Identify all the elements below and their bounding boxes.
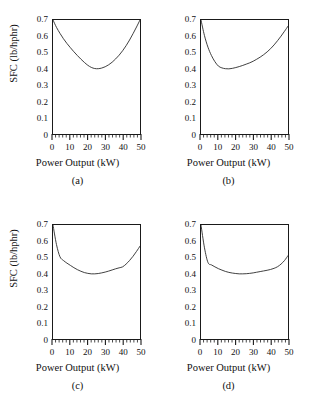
y-tick-label: 0.6 — [185, 236, 196, 245]
y-tick-label: 0.5 — [185, 48, 196, 57]
y-tick-label: 0.2 — [37, 97, 48, 106]
x-tick-label: 20 — [83, 348, 92, 357]
y-tick-label: 0.6 — [37, 236, 48, 245]
x-axis-title-d: Power Output (kW) — [151, 362, 306, 373]
y-tick-label: 0.7 — [185, 220, 196, 229]
x-tick-label: 40 — [119, 143, 128, 152]
sfc-curve-b — [201, 20, 288, 134]
y-tick-label: 0.4 — [37, 269, 48, 278]
y-tick-label: 0.6 — [185, 31, 196, 40]
x-tick-label: 30 — [101, 143, 110, 152]
x-tick-labels-c: 01020304050 — [52, 348, 141, 360]
x-tick-label: 0 — [50, 348, 55, 357]
panel-caption-c: (c) — [0, 380, 155, 391]
y-tick-label: 0.6 — [37, 31, 48, 40]
chart-panel-b: 00.10.20.30.40.50.60.7 01020304050 Power… — [156, 0, 311, 205]
x-tick-label: 40 — [267, 348, 276, 357]
x-tick-label: 30 — [249, 348, 258, 357]
y-tick-label: 0 — [44, 336, 49, 345]
x-tick-label: 0 — [198, 143, 203, 152]
x-tick-label: 50 — [137, 143, 146, 152]
y-tick-labels-d: 00.10.20.30.40.50.60.7 — [170, 224, 196, 340]
x-tick-label: 30 — [101, 348, 110, 357]
y-tick-label: 0.1 — [185, 319, 196, 328]
x-tick-label: 30 — [249, 143, 258, 152]
y-tick-label: 0.2 — [37, 302, 48, 311]
x-tick-label: 50 — [285, 143, 294, 152]
x-tick-label: 10 — [213, 143, 222, 152]
x-tick-labels-b: 01020304050 — [200, 143, 289, 155]
chart-panel-c: SFC (lb/hphr) 00.10.20.30.40.50.60.7 010… — [0, 205, 155, 410]
x-tick-labels-a: 01020304050 — [52, 143, 141, 155]
y-tick-labels-a: 00.10.20.30.40.50.60.7 — [22, 19, 48, 135]
x-tick-label: 50 — [137, 348, 146, 357]
y-tick-label: 0.2 — [185, 97, 196, 106]
y-tick-label: 0.5 — [37, 48, 48, 57]
y-tick-label: 0 — [192, 336, 197, 345]
y-tick-label: 0.7 — [185, 15, 196, 24]
y-tick-labels-b: 00.10.20.30.40.50.60.7 — [170, 19, 196, 135]
y-tick-label: 0 — [44, 131, 49, 140]
x-tick-labels-d: 01020304050 — [200, 348, 289, 360]
panel-caption-d: (d) — [151, 380, 306, 391]
y-tick-label: 0.4 — [185, 64, 196, 73]
x-tick-label: 0 — [198, 348, 203, 357]
plot-area-c — [52, 224, 141, 340]
sfc-curve-d — [201, 225, 288, 339]
y-tick-label: 0.4 — [37, 64, 48, 73]
y-tick-label: 0.1 — [185, 114, 196, 123]
chart-panel-d: 00.10.20.30.40.50.60.7 01020304050 Power… — [156, 205, 311, 410]
y-tick-label: 0.3 — [185, 286, 196, 295]
plot-area-b — [200, 19, 289, 135]
x-tick-label: 0 — [50, 143, 55, 152]
x-tick-label: 50 — [285, 348, 294, 357]
chart-panel-a: SFC (lb/hphr) 00.10.20.30.40.50.60.7 010… — [0, 0, 155, 205]
y-tick-label: 0.5 — [37, 253, 48, 262]
y-tick-label: 0.1 — [37, 319, 48, 328]
y-axis-title-c: SFC (lb/hphr) — [8, 220, 19, 298]
y-tick-label: 0.1 — [37, 114, 48, 123]
y-tick-label: 0.3 — [185, 81, 196, 90]
y-tick-label: 0.5 — [185, 253, 196, 262]
x-tick-label: 20 — [231, 143, 240, 152]
sfc-curve-c — [53, 225, 140, 339]
y-tick-label: 0.4 — [185, 269, 196, 278]
x-axis-title-b: Power Output (kW) — [151, 157, 306, 168]
plot-area-d — [200, 224, 289, 340]
x-tick-label: 20 — [231, 348, 240, 357]
x-tick-label: 40 — [119, 348, 128, 357]
figure-panel-grid: SFC (lb/hphr) 00.10.20.30.40.50.60.7 010… — [0, 0, 311, 411]
x-axis-title-a: Power Output (kW) — [0, 157, 155, 168]
x-tick-label: 10 — [65, 348, 74, 357]
sfc-curve-a — [53, 20, 140, 134]
x-axis-title-c: Power Output (kW) — [0, 362, 155, 373]
x-tick-label: 20 — [83, 143, 92, 152]
y-tick-label: 0.3 — [37, 81, 48, 90]
y-tick-label: 0.7 — [37, 15, 48, 24]
y-tick-label: 0.3 — [37, 286, 48, 295]
x-tick-label: 10 — [213, 348, 222, 357]
x-tick-label: 10 — [65, 143, 74, 152]
y-axis-title-a: SFC (lb/hphr) — [8, 15, 19, 93]
plot-area-a — [52, 19, 141, 135]
y-tick-label: 0 — [192, 131, 197, 140]
x-tick-label: 40 — [267, 143, 276, 152]
panel-caption-a: (a) — [0, 175, 155, 186]
y-tick-label: 0.7 — [37, 220, 48, 229]
panel-caption-b: (b) — [151, 175, 306, 186]
y-tick-labels-c: 00.10.20.30.40.50.60.7 — [22, 224, 48, 340]
y-tick-label: 0.2 — [185, 302, 196, 311]
